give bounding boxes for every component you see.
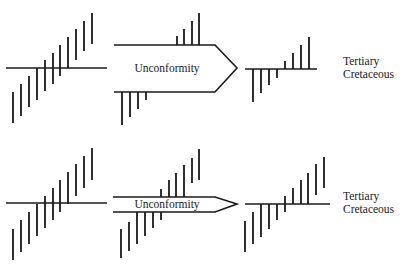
label-cretaceous: Cretaceous (343, 203, 395, 215)
bottom-initial-section (6, 148, 107, 260)
top-result-section (245, 37, 317, 102)
arrow-label: Unconformity (134, 198, 199, 211)
top-unconformity-arrow: Unconformity (114, 13, 237, 125)
arrow-label: Unconformity (134, 62, 199, 75)
label-tertiary: Tertiary (343, 190, 379, 203)
bottom-row: Unconformity Tertiary Cretaceous (6, 148, 395, 260)
unconformity-diagram: Unconformity Tertiary Cretaceous (0, 0, 405, 271)
label-cretaceous: Cretaceous (343, 68, 395, 80)
label-tertiary: Tertiary (343, 55, 379, 68)
top-initial-section (6, 13, 107, 123)
bottom-unconformity-arrow: Unconformity (113, 149, 237, 258)
bottom-result-section (245, 157, 330, 252)
top-row: Unconformity Tertiary Cretaceous (6, 13, 395, 125)
